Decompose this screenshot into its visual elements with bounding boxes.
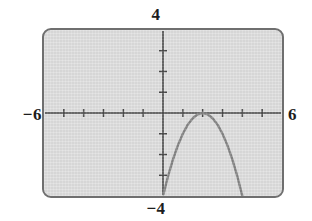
graphing-calculator-figure: 4 −6 6 −4 [0, 0, 312, 221]
parabola-curve [163, 113, 242, 196]
y-max-label: 4 [0, 6, 312, 23]
calculator-screen [42, 28, 284, 198]
y-min-label: −4 [0, 200, 312, 217]
x-min-label: −6 [8, 106, 42, 123]
plot-area [44, 30, 282, 196]
x-max-label: 6 [288, 106, 310, 123]
